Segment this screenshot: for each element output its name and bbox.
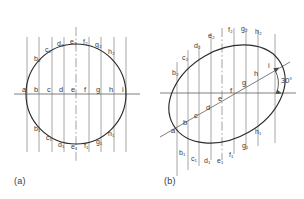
label-b2: b₂ bbox=[34, 55, 41, 62]
label-b-g: g bbox=[242, 78, 246, 87]
label-b-d1: d₁ bbox=[204, 157, 211, 164]
label-d1: d₁ bbox=[58, 141, 65, 148]
label-b-c: c bbox=[194, 111, 198, 120]
label-e1: e₁ bbox=[71, 143, 78, 150]
label-b-b2: b₂ bbox=[172, 69, 179, 76]
label-d2: d₂ bbox=[57, 40, 64, 47]
label-b-f2: f₂ bbox=[228, 26, 233, 33]
label-i: i bbox=[122, 85, 124, 94]
label-b-d2: d₂ bbox=[194, 42, 201, 49]
panel-b-ordinates bbox=[177, 28, 275, 176]
label-b-h: h bbox=[254, 69, 258, 78]
label-b-c1: c₁ bbox=[191, 155, 198, 162]
label-b-h1: h₁ bbox=[255, 128, 262, 135]
caption-panel-b: (b) bbox=[164, 176, 176, 186]
label-b-e: e bbox=[218, 94, 222, 103]
label-b-g1: g₁ bbox=[242, 142, 249, 150]
label-b-i: i bbox=[268, 61, 270, 70]
panel-b-ellipse bbox=[151, 25, 302, 163]
label-g1: g₁ bbox=[96, 138, 103, 146]
label-c: c bbox=[47, 85, 51, 94]
figure-container: a b c d e f g h i b₂ c₂ d₂ e₂ f₂ g₂ h₂ bbox=[0, 0, 304, 199]
label-b-h2: h₂ bbox=[255, 28, 262, 35]
label-f1: f₁ bbox=[84, 142, 89, 149]
label-c2: c₂ bbox=[45, 46, 52, 53]
label-f2: f₂ bbox=[83, 38, 88, 45]
label-b-b1: b₁ bbox=[179, 149, 186, 156]
label-b-f1: f₁ bbox=[229, 151, 234, 158]
label-b-d: d bbox=[206, 103, 210, 112]
label-h: h bbox=[109, 85, 113, 94]
label-c1: c₁ bbox=[46, 134, 53, 141]
panel-a-axis-labels: a b c d e f g h i bbox=[22, 85, 124, 94]
label-h2: h₂ bbox=[108, 48, 115, 55]
label-h1: h₁ bbox=[108, 130, 115, 137]
label-b-g2: g₂ bbox=[241, 25, 248, 33]
caption-panel-a: (a) bbox=[14, 176, 26, 186]
panel-a: a b c d e f g h i b₂ c₂ d₂ e₂ f₂ g₂ h₂ bbox=[14, 27, 140, 162]
panel-a-lower-labels: b₁ c₁ d₁ e₁ f₁ g₁ h₁ bbox=[34, 125, 115, 150]
label-b-b: b bbox=[183, 118, 187, 127]
panel-b: 30° a b c d e f g h i b₂ c₂ d₂ e₂ f₂ g₂ bbox=[151, 25, 302, 176]
angle-label: 30° bbox=[281, 76, 292, 85]
technical-drawing: a b c d e f g h i b₂ c₂ d₂ e₂ f₂ g₂ h₂ bbox=[0, 0, 304, 199]
label-f: f bbox=[84, 85, 87, 94]
label-e2: e₂ bbox=[70, 38, 77, 45]
label-e: e bbox=[71, 85, 75, 94]
label-g: g bbox=[96, 85, 100, 94]
label-g2: g₂ bbox=[95, 41, 102, 49]
label-d: d bbox=[59, 85, 63, 94]
label-b: b bbox=[34, 85, 38, 94]
label-b-e1: e₁ bbox=[217, 157, 224, 164]
label-b-e2: e₂ bbox=[208, 32, 215, 39]
panel-b-axis-labels: a b c d e f g h i bbox=[171, 61, 270, 135]
panel-b-lower-labels: b₁ c₁ d₁ e₁ f₁ g₁ h₁ bbox=[179, 128, 262, 164]
label-b1: b₁ bbox=[34, 125, 41, 132]
label-b-f: f bbox=[230, 86, 233, 95]
label-b-c2: c₂ bbox=[182, 54, 189, 61]
panel-b-inclined-axis bbox=[160, 62, 290, 137]
panel-a-upper-labels: b₂ c₂ d₂ e₂ f₂ g₂ h₂ bbox=[34, 38, 115, 62]
angle-arc bbox=[275, 70, 278, 92]
